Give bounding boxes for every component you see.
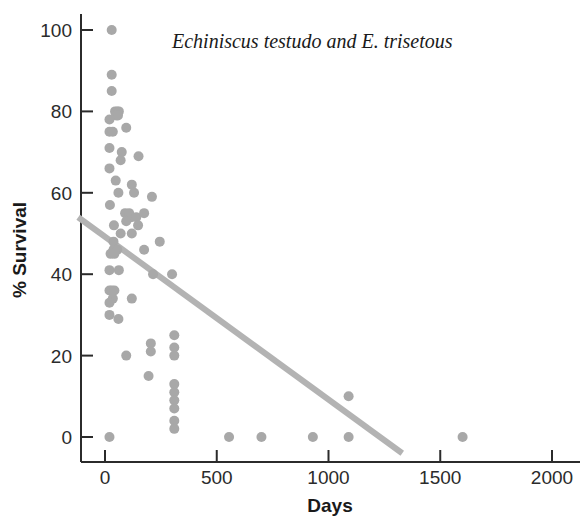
data-point bbox=[144, 371, 154, 381]
x-tick-group: 0500100015002000 bbox=[100, 450, 573, 488]
data-point bbox=[104, 432, 114, 442]
data-point bbox=[104, 298, 114, 308]
x-tick-label: 2000 bbox=[531, 467, 573, 488]
data-point bbox=[169, 404, 179, 414]
chart-figure: 020406080100 0500100015002000 Echiniscus… bbox=[0, 0, 587, 526]
scatter-plot-svg: 020406080100 0500100015002000 Echiniscus… bbox=[0, 0, 587, 526]
data-point bbox=[169, 424, 179, 434]
data-point bbox=[104, 163, 114, 173]
data-point bbox=[147, 192, 157, 202]
x-axis-label: Days bbox=[307, 495, 352, 516]
y-tick-label: 80 bbox=[51, 101, 72, 122]
data-point bbox=[169, 351, 179, 361]
data-point bbox=[107, 86, 117, 96]
data-point bbox=[116, 155, 126, 165]
x-tick-label: 0 bbox=[100, 467, 111, 488]
data-point bbox=[116, 229, 126, 239]
data-point bbox=[113, 314, 123, 324]
data-point bbox=[121, 351, 131, 361]
data-point bbox=[121, 216, 131, 226]
data-point bbox=[104, 265, 114, 275]
data-point bbox=[133, 220, 143, 230]
data-point bbox=[109, 249, 119, 259]
data-point bbox=[256, 432, 266, 442]
trendline-group bbox=[78, 217, 402, 453]
y-tick-group: 020406080100 bbox=[40, 20, 93, 448]
data-point bbox=[308, 432, 318, 442]
data-point bbox=[344, 391, 354, 401]
data-point bbox=[107, 25, 117, 35]
data-point bbox=[114, 265, 124, 275]
data-point bbox=[155, 237, 165, 247]
data-point bbox=[148, 269, 158, 279]
y-tick-label: 60 bbox=[51, 183, 72, 204]
data-point bbox=[104, 143, 114, 153]
data-point bbox=[129, 188, 139, 198]
y-tick-label: 40 bbox=[51, 264, 72, 285]
data-point bbox=[224, 432, 234, 442]
data-point bbox=[107, 70, 117, 80]
data-point bbox=[111, 176, 121, 186]
y-tick-label: 100 bbox=[40, 20, 72, 41]
data-point bbox=[344, 432, 354, 442]
data-point bbox=[134, 151, 144, 161]
data-point bbox=[139, 208, 149, 218]
trend-line bbox=[78, 217, 402, 453]
y-tick-label: 0 bbox=[61, 427, 72, 448]
x-tick-label: 500 bbox=[201, 467, 233, 488]
data-point bbox=[146, 347, 156, 357]
data-point bbox=[169, 330, 179, 340]
data-points-group bbox=[104, 25, 467, 442]
data-point bbox=[127, 294, 137, 304]
data-point bbox=[458, 432, 468, 442]
data-point bbox=[167, 269, 177, 279]
data-point bbox=[105, 200, 115, 210]
data-point bbox=[104, 310, 114, 320]
x-tick-label: 1000 bbox=[307, 467, 349, 488]
x-tick-label: 1500 bbox=[419, 467, 461, 488]
data-point bbox=[104, 115, 114, 125]
data-point bbox=[108, 127, 118, 137]
data-point bbox=[139, 245, 149, 255]
data-point bbox=[109, 220, 119, 230]
data-point bbox=[113, 110, 123, 120]
data-point bbox=[127, 229, 137, 239]
data-point bbox=[113, 188, 123, 198]
y-tick-label: 20 bbox=[51, 346, 72, 367]
chart-title: Echiniscus testudo and E. trisetous bbox=[171, 30, 453, 52]
y-axis-label: % Survival bbox=[9, 202, 30, 298]
data-point bbox=[121, 123, 131, 133]
